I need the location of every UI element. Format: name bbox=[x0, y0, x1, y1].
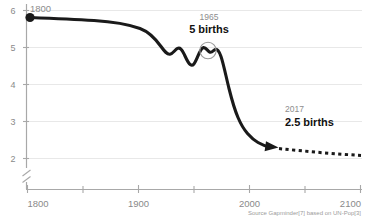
y-axis-break-icon bbox=[23, 170, 31, 176]
start-year-label: 1800 bbox=[30, 3, 51, 14]
y-tick-label-3: 3 bbox=[10, 117, 15, 127]
y-axis: 6 5 4 3 2 bbox=[10, 4, 30, 189]
peak-value-label: 5 births bbox=[189, 23, 229, 35]
x-tick-label-2100: 2100 bbox=[340, 198, 361, 209]
x-axis: 1800 1900 2000 2100 bbox=[26, 185, 362, 209]
y-tick-label-5: 5 bbox=[10, 43, 15, 53]
chart-canvas: 6 5 4 3 2 1800 1900 2000 2100 1800 1965 … bbox=[0, 0, 368, 221]
x-tick-label-1900: 1900 bbox=[128, 198, 149, 209]
series-historical-line bbox=[30, 18, 270, 148]
x-tick-label-2000: 2000 bbox=[239, 198, 260, 209]
y-axis-break-icon-2 bbox=[23, 177, 31, 183]
y-tick-label-4: 4 bbox=[10, 80, 15, 90]
y-tick-label-2: 2 bbox=[10, 154, 15, 164]
annotation-today: 2017 2.5 births bbox=[285, 104, 334, 128]
series-projection-line bbox=[279, 149, 361, 156]
source-note: Source Gapminder[7] based on UN-Pop[3] bbox=[248, 210, 361, 216]
today-value-label: 2.5 births bbox=[285, 116, 334, 128]
today-year-label: 2017 bbox=[285, 104, 304, 114]
fertility-rate-chart: 6 5 4 3 2 1800 1900 2000 2100 1800 1965 … bbox=[0, 0, 368, 221]
projection-arrow-icon bbox=[265, 141, 279, 151]
annotation-peak: 1965 5 births bbox=[189, 12, 229, 35]
annotation-start: 1800 bbox=[30, 3, 51, 14]
y-tick-label-6: 6 bbox=[10, 6, 15, 16]
peak-year-label: 1965 bbox=[200, 12, 219, 22]
start-point-dot bbox=[25, 13, 34, 22]
x-tick-label-1800: 1800 bbox=[28, 198, 49, 209]
